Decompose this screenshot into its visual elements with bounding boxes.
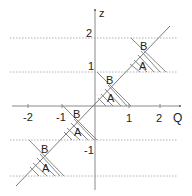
y-tick-m1: -1 <box>84 144 94 156</box>
z-axis-arrow-icon <box>94 9 96 11</box>
q-axis-arrow-icon <box>179 105 181 107</box>
x-tick-m2: -2 <box>23 111 33 123</box>
y-tick-2: 2 <box>86 27 92 39</box>
diagram: z Q -2 -1 1 2 2 1 -1 B A B A B A B A <box>0 0 192 196</box>
x-tick-m1: -1 <box>56 111 66 123</box>
x-tick-1: 1 <box>126 112 132 124</box>
hatching <box>29 38 166 176</box>
x-tick-2: 2 <box>156 112 162 124</box>
y-tick-1: 1 <box>88 60 94 72</box>
region-1-lower-label: A <box>139 60 147 72</box>
axes <box>12 10 180 190</box>
region-3-lower-label: A <box>74 126 82 138</box>
region-2-lower-label: A <box>107 92 115 104</box>
z-axis-label: z <box>99 7 105 19</box>
region-4-upper-label: B <box>41 143 48 155</box>
region-2-upper-label: B <box>106 74 113 86</box>
q-axis-label: Q <box>173 111 182 125</box>
region-3-upper-label: B <box>73 108 80 120</box>
region-4-lower-label: A <box>42 162 50 174</box>
region-1-upper-label: B <box>140 40 147 52</box>
